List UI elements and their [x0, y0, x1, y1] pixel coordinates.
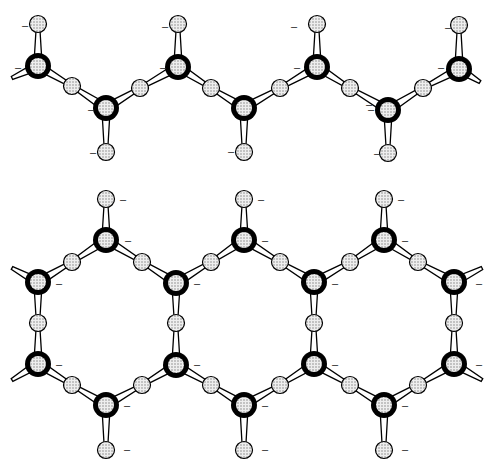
cation-core	[30, 274, 46, 290]
cation-core	[306, 274, 322, 290]
oxygen-atom	[451, 17, 468, 34]
silicate-structure-diagram: ––––––––––––––––––––––––––––––––––	[0, 0, 494, 472]
cation-core	[98, 232, 114, 248]
charge-label: –	[294, 61, 301, 73]
cation-core	[446, 274, 462, 290]
cation-core	[168, 275, 184, 291]
charge-label: –	[90, 146, 97, 158]
oxygen-atom	[236, 144, 253, 161]
oxygen-atom	[410, 377, 427, 394]
charge-label: –	[88, 103, 95, 115]
oxygen-atom	[415, 80, 432, 97]
charge-label: –	[438, 61, 445, 73]
oxygen-atom	[98, 191, 115, 208]
cation-core	[376, 232, 392, 248]
oxygen-atom	[309, 16, 326, 33]
charge-label: –	[332, 358, 339, 370]
oxygen-atom	[98, 442, 115, 459]
oxygen-atom	[203, 254, 220, 271]
charge-label: –	[15, 61, 22, 73]
oxygen-atom	[203, 80, 220, 97]
charge-label: –	[124, 443, 131, 455]
charge-label: –	[374, 147, 381, 159]
oxygen-atom	[30, 16, 47, 33]
cation-core	[98, 100, 114, 116]
cation-core	[309, 59, 325, 75]
cation-core	[168, 357, 184, 373]
charge-label: –	[445, 21, 452, 33]
charge-label: –	[56, 358, 63, 370]
oxygen-atom	[446, 315, 463, 332]
oxygen-atom	[342, 80, 359, 97]
charge-label: –	[160, 61, 167, 73]
charge-label: –	[402, 234, 409, 246]
oxygen-atom	[342, 254, 359, 271]
charge-label: –	[228, 145, 235, 157]
charge-label: –	[262, 443, 269, 455]
cation-core	[98, 397, 114, 413]
oxygen-atom	[203, 377, 220, 394]
oxygen-atom	[98, 144, 115, 161]
charge-label: –	[125, 234, 132, 246]
cation-core	[236, 100, 252, 116]
charge-label: –	[476, 358, 483, 370]
cation-core	[446, 356, 462, 372]
charge-label: –	[22, 19, 29, 31]
oxygen-atom	[376, 442, 393, 459]
oxygen-atom	[64, 78, 81, 95]
charge-label: –	[332, 277, 339, 289]
cation-core	[236, 397, 252, 413]
oxygen-atom	[30, 315, 47, 332]
structure-canvas: ––––––––––––––––––––––––––––––––––	[0, 0, 494, 472]
oxygen-atom	[410, 254, 427, 271]
cation-core	[306, 356, 322, 372]
cation-core	[30, 356, 46, 372]
charge-label: –	[476, 277, 483, 289]
cation-core	[236, 232, 252, 248]
charge-label: –	[56, 277, 63, 289]
oxygen-atom	[306, 315, 323, 332]
oxygen-atom	[64, 254, 81, 271]
oxygen-atom	[272, 80, 289, 97]
charge-label: –	[124, 399, 131, 411]
oxygen-atom	[272, 377, 289, 394]
charge-label: –	[366, 98, 373, 110]
charge-label: –	[402, 443, 409, 455]
oxygen-atom	[132, 80, 149, 97]
oxygen-atom	[64, 377, 81, 394]
charge-label: –	[194, 358, 201, 370]
oxygen-atom	[134, 254, 151, 271]
oxygen-atom	[236, 191, 253, 208]
charge-label: –	[398, 193, 405, 205]
oxygen-atom	[168, 315, 185, 332]
charge-label: –	[262, 399, 269, 411]
charge-label: –	[120, 193, 127, 205]
oxygen-atom	[170, 16, 187, 33]
charge-label: –	[291, 20, 298, 32]
oxygen-atom	[376, 191, 393, 208]
oxygen-atom	[272, 254, 289, 271]
cation-core	[380, 102, 396, 118]
cation-core	[376, 397, 392, 413]
cation-core	[451, 61, 467, 77]
cation-core	[170, 59, 186, 75]
charge-label: –	[402, 399, 409, 411]
charge-label: –	[258, 193, 265, 205]
oxygen-atom	[342, 377, 359, 394]
charge-label: –	[162, 20, 169, 32]
oxygen-atom	[134, 377, 151, 394]
charge-label: –	[262, 234, 269, 246]
charge-label: –	[194, 277, 201, 289]
oxygen-atom	[380, 145, 397, 162]
cation-core	[30, 58, 46, 74]
oxygen-atom	[236, 442, 253, 459]
